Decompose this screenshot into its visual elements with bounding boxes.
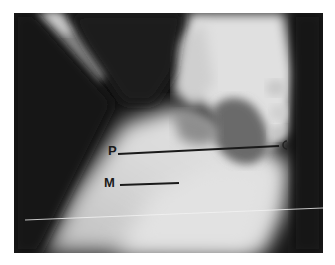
radiograph-shapes: [14, 13, 323, 253]
label-p: P: [108, 144, 117, 157]
label-m: M: [104, 176, 115, 189]
radiograph-image: P M: [14, 13, 323, 253]
